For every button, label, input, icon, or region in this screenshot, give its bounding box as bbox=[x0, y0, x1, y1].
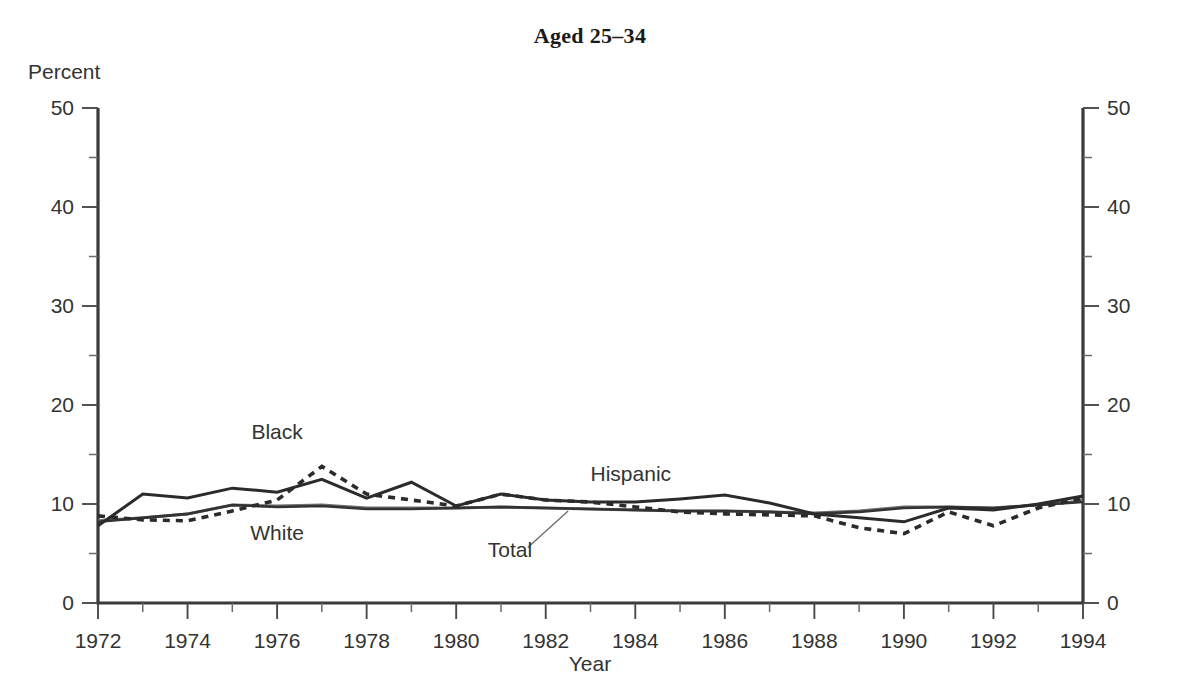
y-tick-label-left: 20 bbox=[51, 393, 74, 416]
series-annotations: BlackWhiteTotalHispanic bbox=[250, 420, 671, 562]
y-tick-label-right: 30 bbox=[1107, 294, 1130, 317]
leader-line bbox=[528, 511, 568, 548]
axes bbox=[98, 108, 1083, 603]
series-annotation-black: Black bbox=[251, 420, 303, 443]
x-tick-label: 1980 bbox=[433, 629, 480, 652]
left-and-bottom-axis bbox=[98, 108, 1083, 603]
y-tick-label-right: 40 bbox=[1107, 195, 1130, 218]
series-annotation-hispanic: Hispanic bbox=[591, 462, 672, 485]
x-tick-label: 1974 bbox=[164, 629, 211, 652]
x-tick-label: 1994 bbox=[1060, 629, 1107, 652]
y-tick-label-left: 10 bbox=[51, 492, 74, 515]
y-tick-label-left: 30 bbox=[51, 294, 74, 317]
x-tick-label: 1990 bbox=[881, 629, 928, 652]
y-tick-label-right: 10 bbox=[1107, 492, 1130, 515]
chart-figure: Aged 25–34 Percent Year 0010102020303040… bbox=[0, 0, 1180, 693]
y-tick-label-right: 0 bbox=[1107, 591, 1119, 614]
series-line-hispanic bbox=[98, 479, 1083, 526]
annotation-leader-lines bbox=[528, 511, 568, 548]
x-tick-label: 1992 bbox=[970, 629, 1017, 652]
x-tick-label: 1972 bbox=[75, 629, 122, 652]
y-tick-label-left: 40 bbox=[51, 195, 74, 218]
x-tick-label: 1982 bbox=[522, 629, 569, 652]
x-tick-label: 1986 bbox=[701, 629, 748, 652]
y-tick-label-right: 50 bbox=[1107, 96, 1130, 119]
y-tick-label-left: 0 bbox=[62, 591, 74, 614]
series-annotation-white: White bbox=[250, 521, 304, 544]
x-tick-label: 1984 bbox=[612, 629, 659, 652]
axis-ticks bbox=[82, 108, 1099, 619]
series-annotation-total: Total bbox=[488, 538, 532, 561]
x-tick-label: 1988 bbox=[791, 629, 838, 652]
y-tick-labels: 0010102020303040405050 bbox=[51, 96, 1131, 614]
plot-area: 0010102020303040405050 19721974197619781… bbox=[0, 0, 1180, 693]
y-tick-label-left: 50 bbox=[51, 96, 74, 119]
y-tick-label-right: 20 bbox=[1107, 393, 1130, 416]
x-tick-label: 1978 bbox=[343, 629, 390, 652]
x-tick-labels: 1972197419761978198019821984198619881990… bbox=[75, 629, 1107, 652]
x-tick-label: 1976 bbox=[254, 629, 301, 652]
